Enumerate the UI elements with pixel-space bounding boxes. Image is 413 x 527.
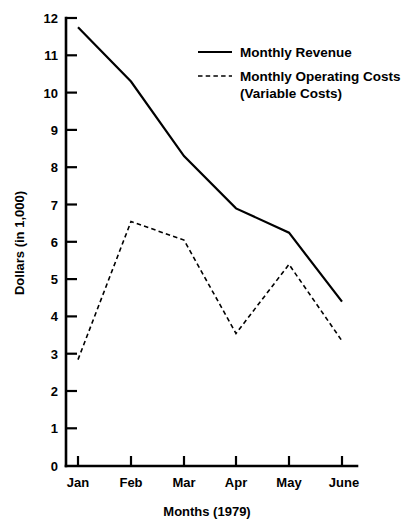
y-tick-label: 4 (51, 309, 59, 324)
y-tick-label: 8 (51, 160, 58, 175)
line-chart: 12 11 10 9 8 7 6 5 4 3 2 1 0 Jan Feb (0, 0, 413, 527)
y-tick-label: 6 (51, 235, 58, 250)
y-tick-label: 3 (51, 347, 58, 362)
y-axis-tick-labels: 12 11 10 9 8 7 6 5 4 3 2 1 0 (44, 11, 59, 474)
y-axis-title: Dollars (in 1,000) (12, 191, 27, 295)
x-axis-tick-labels: Jan Feb Mar Apr May June (67, 475, 359, 490)
y-tick-label: 2 (51, 384, 58, 399)
x-tick-label: Feb (119, 475, 142, 490)
x-tick-label: Mar (172, 475, 195, 490)
x-tick-label: Jan (67, 475, 89, 490)
y-tick-label: 7 (51, 198, 58, 213)
y-tick-label: 1 (51, 421, 58, 436)
series-line-monthly-operating-costs (78, 222, 342, 360)
y-tick-label: 5 (51, 272, 58, 287)
y-tick-label: 10 (44, 86, 58, 101)
x-axis-ticks (78, 456, 342, 466)
y-axis-ticks (66, 18, 77, 428)
x-axis-title: Months (1979) (163, 504, 250, 519)
x-tick-label: May (276, 475, 302, 490)
y-tick-label: 0 (51, 459, 58, 474)
y-tick-label: 9 (51, 123, 58, 138)
x-tick-label: June (329, 475, 359, 490)
y-tick-label: 11 (44, 48, 58, 63)
x-tick-label: Apr (225, 475, 247, 490)
chart-legend: Monthly Revenue Monthly Operating Costs … (198, 45, 401, 101)
legend-label-monthly-operating-costs-line2: (Variable Costs) (240, 86, 342, 101)
legend-label-monthly-operating-costs: Monthly Operating Costs (240, 69, 401, 84)
chart-canvas: 12 11 10 9 8 7 6 5 4 3 2 1 0 Jan Feb (0, 0, 413, 527)
legend-label-monthly-revenue: Monthly Revenue (240, 45, 352, 60)
y-tick-label: 12 (44, 11, 58, 26)
